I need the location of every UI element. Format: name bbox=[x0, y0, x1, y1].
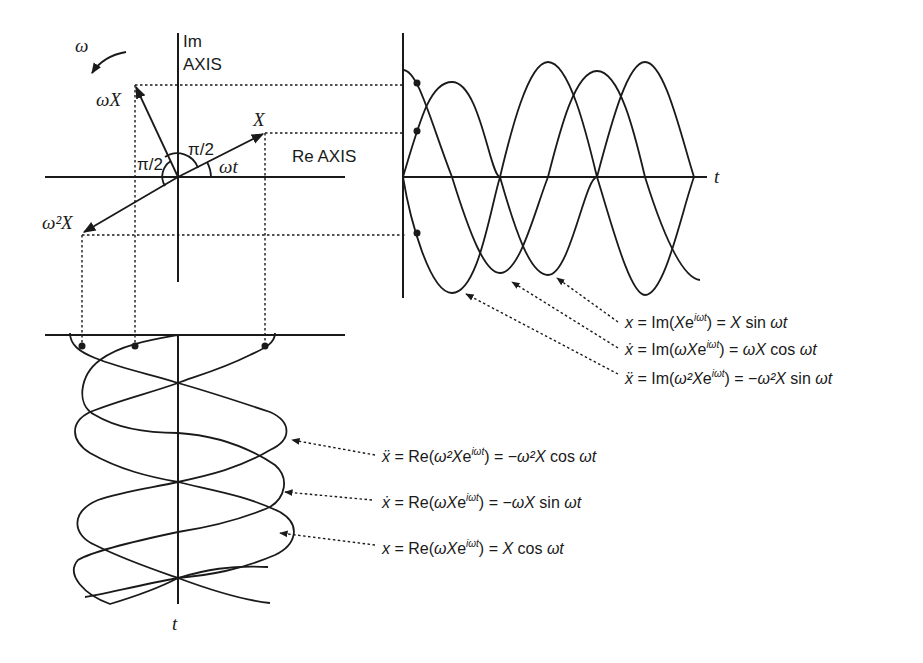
re-axis-label: Re AXIS bbox=[292, 147, 356, 166]
angle-left-label: π/2 bbox=[137, 155, 163, 174]
im-axis-label: Im bbox=[183, 32, 202, 51]
angle-upper-label: π/2 bbox=[188, 140, 214, 159]
angle-arc-omega-t bbox=[207, 162, 211, 177]
leader-xdot-imag bbox=[512, 282, 618, 348]
equation-xddot-real: ẍ = Re(ω²Xeiωt) = −ω²X cos ωt bbox=[381, 446, 597, 465]
equations-real: ẍ = Re(ω²Xeiωt) = −ω²X cos ωt ẋ = Re(ωXe… bbox=[381, 446, 597, 557]
equation-xdot-real: ẋ = Re(ωXeiωt) = −ωX sin ωt bbox=[381, 492, 582, 511]
point-x-real bbox=[262, 343, 269, 350]
phasor-plane: Im AXIS Re AXIS ω X ωX ω²X π/2 π/2 ωt bbox=[42, 32, 405, 343]
curve-xddot-imag bbox=[403, 62, 694, 295]
curve-x-real bbox=[75, 333, 294, 597]
angle-omega-t-label: ωt bbox=[219, 156, 238, 177]
equation-xdot-imag: ẋ = Im(ωXeiωt) = ωX cos ωt bbox=[624, 339, 817, 358]
bottom-plot-t-label: t bbox=[172, 613, 178, 634]
point-x-imag bbox=[414, 128, 421, 135]
point-xdot-imag bbox=[414, 80, 421, 87]
leader-x-real bbox=[280, 533, 375, 545]
vector-omega2-x-label: ω²X bbox=[42, 212, 74, 233]
leader-xdot-real bbox=[285, 492, 372, 500]
equation-x-real: x = Re(ωXeiωt) = X cos ωt bbox=[381, 538, 564, 557]
curve-x-imag bbox=[403, 62, 694, 275]
leader-xddot-real bbox=[292, 440, 375, 455]
point-xdot-real bbox=[132, 343, 139, 350]
right-plot-t-label: t bbox=[714, 166, 720, 187]
point-xddot-real bbox=[79, 343, 86, 350]
curve-xdot-imag bbox=[403, 70, 700, 280]
vector-omega-x-label: ωX bbox=[96, 89, 122, 110]
omega-rotation-label: ω bbox=[75, 35, 88, 56]
point-xddot-imag bbox=[414, 230, 421, 237]
rotation-arrow-icon bbox=[92, 52, 126, 73]
time-plot-real: t bbox=[45, 333, 375, 634]
vector-x-label: X bbox=[252, 109, 266, 130]
equations-imaginary: x = Im(Xeiωt) = X sin ωt ẋ = Im(ωXeiωt) … bbox=[624, 312, 833, 387]
equation-xddot-imag: ẍ = Im(ω²Xeiωt) = −ω²X sin ωt bbox=[624, 368, 833, 387]
im-axis-label-2: AXIS bbox=[183, 55, 222, 74]
equation-x-imag: x = Im(Xeiωt) = X sin ωt bbox=[624, 312, 788, 331]
phasor-diagram: Im AXIS Re AXIS ω X ωX ω²X π/2 π/2 ωt t bbox=[0, 0, 923, 663]
